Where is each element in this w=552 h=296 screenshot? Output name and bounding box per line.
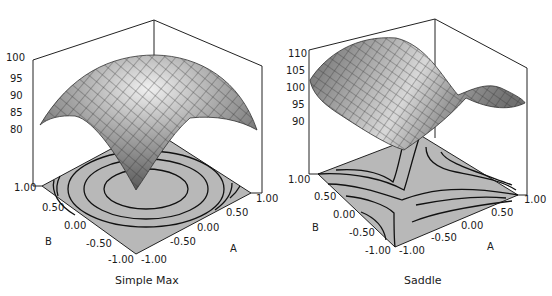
z-tick-1: 105 [286,65,305,77]
b-tick-2: 0.00 [64,220,86,232]
z-tick-2: 90 [10,90,23,102]
a-tick-3: 0.50 [226,207,248,219]
b-tick-4: -1.00 [108,254,134,266]
b-tick-4: -1.00 [365,245,391,257]
a-tick-0: -1.00 [141,254,167,266]
surface-saddle [310,38,525,150]
chart-title: Simple Max [115,274,179,287]
a-tick-3: 0.50 [491,207,513,219]
z-tick-3: 85 [10,107,23,119]
a-tick-0: -1.00 [399,245,425,257]
a-axis-label: A [487,241,494,253]
b-tick-0: 1.00 [14,182,36,194]
b-tick-3: -0.50 [86,238,112,250]
b-tick-1: 0.50 [42,202,64,214]
b-tick-0: 1.00 [288,174,310,186]
chart-title: Saddle [404,274,442,287]
a-tick-4: 1.00 [256,193,278,205]
a-tick-1: -0.50 [170,236,196,248]
a-tick-2: 0.00 [197,222,219,234]
a-tick-4: 1.00 [524,194,546,206]
z-tick-2: 100 [286,82,305,94]
z-tick-0: 110 [288,48,307,60]
a-axis-label: A [230,243,237,255]
a-tick-1: -0.50 [431,232,457,244]
z-tick-1: 95 [10,73,23,85]
saddle-chart: 110 105 100 95 90 1.00 0.50 0.00 -0.50 -… [276,0,552,296]
b-tick-3: -0.50 [349,227,375,239]
z-tick-0: 100 [6,52,25,64]
z-tick-4: 80 [10,124,23,136]
simple-max-chart: 100 95 90 85 80 1.00 0.50 0.00 -0.50 -1.… [0,0,276,296]
z-tick-4: 90 [292,116,305,128]
a-tick-2: 0.00 [461,220,483,232]
z-tick-3: 95 [292,99,305,111]
contour-floor [318,135,518,247]
b-tick-1: 0.50 [314,191,336,203]
b-axis-label: B [45,236,52,248]
b-tick-2: 0.00 [333,209,355,221]
b-axis-label: B [312,222,319,234]
